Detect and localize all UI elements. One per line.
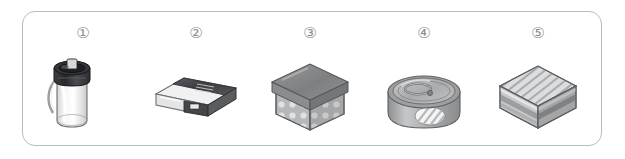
item-cell-striped-box[interactable]: ⑤: [482, 22, 594, 137]
eraser-box-icon: [140, 44, 252, 136]
gift-box-icon: [254, 44, 366, 136]
thermos-tumbler-icon: [27, 44, 139, 136]
item-number-3: ③: [254, 22, 366, 44]
items-panel: ①: [22, 11, 602, 146]
item-cell-thermos-tumbler[interactable]: ①: [27, 22, 139, 137]
item-cell-eraser-box[interactable]: ②: [140, 22, 252, 137]
item-number-4: ④: [368, 22, 480, 44]
item-cell-gift-box[interactable]: ③: [254, 22, 366, 137]
item-number-2: ②: [140, 22, 252, 44]
tin-can-icon: [368, 44, 480, 136]
striped-box-icon: [482, 44, 594, 136]
item-number-1: ①: [27, 22, 139, 44]
item-cell-tin-can[interactable]: ④: [368, 22, 480, 137]
items-row: ①: [23, 12, 601, 145]
item-number-5: ⑤: [482, 22, 594, 44]
